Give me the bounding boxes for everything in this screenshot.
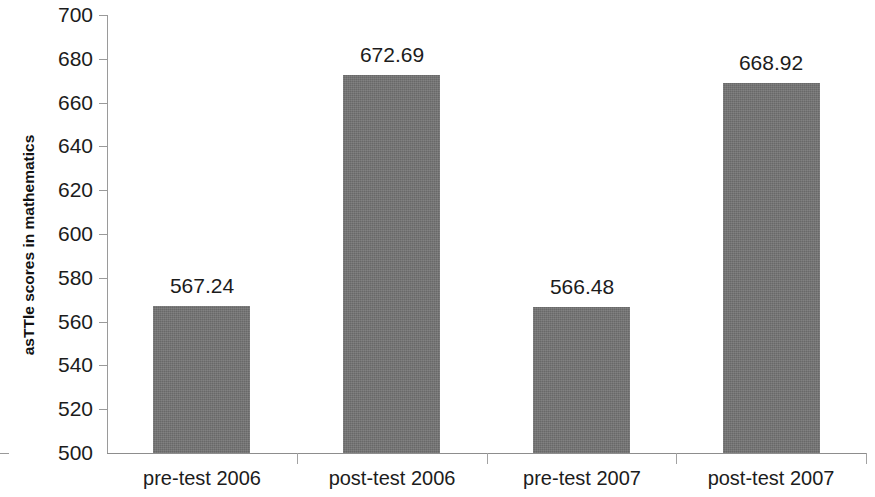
y-tick-label: 540 [58,352,93,377]
y-tick: 660 [0,103,107,104]
y-tick-label: 580 [58,265,93,290]
y-tick-mark [99,278,107,279]
x-category-label: pre-test 2006 [107,466,297,490]
y-tick: 580 [0,278,107,279]
bar [723,83,820,453]
y-tick-mark [99,365,107,366]
y-tick: 500 [0,453,107,454]
y-tick: 640 [0,146,107,147]
y-tick: 560 [0,322,107,323]
bar [343,75,440,453]
x-category-label: pre-test 2007 [487,466,677,490]
x-tick-mark [676,453,677,464]
bar-chart: asTTle scores in mathematics 70068066064… [0,0,875,497]
y-tick-label: 600 [58,221,93,246]
bar-value-label: 672.69 [297,42,487,67]
y-tick-mark [0,453,9,454]
y-tick-mark [99,190,107,191]
bar [153,306,250,453]
y-tick-label: 520 [58,396,93,421]
y-tick-mark [99,234,107,235]
y-tick: 680 [0,59,107,60]
y-axis-line [107,15,108,454]
bar [533,307,630,453]
y-tick: 620 [0,190,107,191]
y-tick: 700 [0,15,107,16]
x-category-label: post-test 2006 [297,466,487,490]
y-tick-label: 640 [58,133,93,158]
y-tick-label: 560 [58,309,93,334]
y-tick-label: 500 [58,440,93,465]
bar-value-label: 567.24 [107,273,297,298]
y-tick-mark [99,103,107,104]
x-tick-mark [866,453,867,464]
x-tick-mark [487,453,488,464]
y-tick-label: 680 [58,46,93,71]
y-tick-mark [99,409,107,410]
y-axis-title: asTTle scores in mathematics [20,80,38,410]
bar-value-label: 668.92 [676,50,866,75]
y-tick-label: 620 [58,177,93,202]
y-tick-label: 660 [58,90,93,115]
bar-value-label: 566.48 [487,274,677,299]
x-tick-mark [297,453,298,464]
x-category-label: post-test 2007 [676,466,866,490]
y-tick-mark [99,59,107,60]
y-tick: 520 [0,409,107,410]
y-tick: 600 [0,234,107,235]
y-tick-label: 700 [58,2,93,27]
y-tick-mark [99,322,107,323]
y-tick-mark [99,146,107,147]
y-tick: 540 [0,365,107,366]
y-tick-mark [99,15,107,16]
